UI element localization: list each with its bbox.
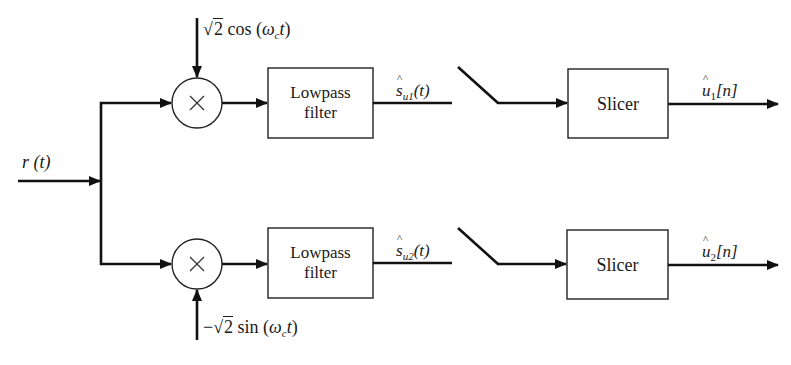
filter-2-output-label: su2(t) <box>396 242 430 262</box>
sampler-switch-1 <box>458 67 498 103</box>
filter-1-output-label: su1(t) <box>396 82 430 102</box>
lowpass-filter-2-label: Lowpass filter <box>268 228 373 298</box>
sampler-switch-2 <box>458 228 498 264</box>
slicer-1-label: Slicer <box>568 69 668 138</box>
oscillator-1-label: √2 cos (ωct) <box>203 20 291 41</box>
oscillator-2-label: −√2 sin (ωct) <box>203 318 298 339</box>
output-1-label: u1[n] <box>702 82 738 102</box>
slicer-2-label: Slicer <box>567 230 668 299</box>
lowpass-filter-1-label: Lowpass filter <box>268 68 373 138</box>
receiver-block-diagram <box>0 0 791 365</box>
output-2-label: u2[n] <box>702 243 738 263</box>
input-label: r (t) <box>22 153 51 171</box>
